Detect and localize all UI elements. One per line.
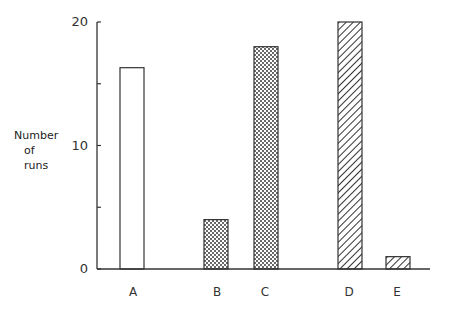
- y-axis-label-line-3: runs: [14, 158, 80, 173]
- x-tick-label-d: D: [334, 285, 364, 299]
- bar-a: [120, 68, 144, 269]
- x-tick-label-c: C: [250, 285, 280, 299]
- bars-group: [120, 22, 410, 269]
- bar-e: [386, 257, 410, 269]
- y-tick-label-10: 10: [58, 138, 88, 153]
- x-tick-label-a: A: [118, 285, 148, 299]
- x-tick-label-b: B: [202, 285, 232, 299]
- bar-c: [254, 47, 278, 269]
- y-tick-label-20: 20: [58, 14, 88, 29]
- x-tick-label-e: E: [382, 285, 412, 299]
- y-tick-label-0: 0: [58, 261, 88, 276]
- bar-d: [338, 22, 362, 269]
- bar-b: [204, 220, 228, 269]
